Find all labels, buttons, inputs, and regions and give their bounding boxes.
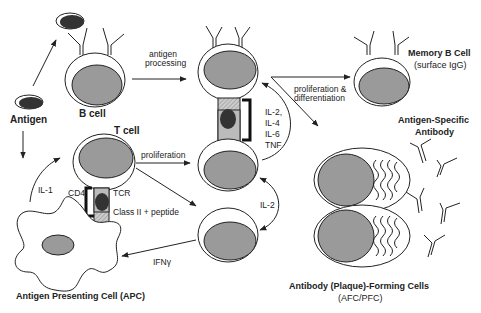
antibody-icon [440, 203, 460, 224]
conjugate-t-cell [198, 139, 258, 191]
mhc-peptide-label: Class II + peptide [113, 207, 179, 217]
afc-cell-1 [314, 148, 410, 212]
afc-cell-2 [314, 205, 410, 267]
memory-b-cell [354, 31, 410, 106]
conjugate-b-cell [198, 26, 258, 100]
antibody-icon [437, 158, 457, 177]
antibody-label-line2: Antibody [415, 127, 454, 137]
arrow-ifng [122, 240, 196, 256]
ifng-label: IFNγ [153, 257, 172, 267]
arrow-t-to-activated [136, 168, 196, 206]
antigen-label: Antigen [10, 114, 47, 125]
antibody-label-line1: Antigen-Specific [398, 115, 469, 125]
memory-b-sublabel: (surface IgG) [414, 60, 467, 70]
edge-label-processing: processing [145, 58, 186, 68]
edge-label-proliferation: proliferation [141, 150, 186, 160]
arrow-antigen-to-bcell [33, 40, 56, 86]
memory-b-label: Memory B Cell [408, 48, 471, 58]
tcr-label: TCR [113, 188, 130, 198]
diagram-canvas: Antigen B cell antigen processing [0, 0, 481, 313]
afc-label: Antibody (Plaque)-Forming Cells [289, 281, 429, 291]
antibody-icon [424, 235, 445, 257]
cd4-label: CD4 [68, 188, 85, 198]
il1-label: IL-1 [38, 185, 53, 195]
cytokine-tnf: TNF [265, 140, 282, 150]
il2-label: IL-2 [260, 200, 275, 210]
cytokine-il6: IL-6 [265, 129, 280, 139]
b-cell-label: B cell [79, 108, 106, 119]
immune-response-diagram: Antigen B cell antigen processing [0, 0, 481, 313]
edge-label-differentiation: differentiation [294, 93, 345, 103]
apc-label: Antigen Presenting Cell (APC) [16, 291, 145, 301]
cytokine-il2: IL-2, [265, 107, 282, 117]
antibody-icon [410, 139, 431, 163]
antibody-icon [406, 188, 424, 213]
activated-t-cell [198, 208, 258, 262]
arrow-il1 [30, 158, 60, 202]
antibody-icons [406, 139, 460, 257]
b-cell [56, 13, 125, 107]
antigen-icon [15, 95, 43, 109]
afc-sublabel: (AFC/PFC) [338, 293, 383, 303]
apc-nucleus [42, 235, 74, 255]
t-cell-label: T cell [114, 125, 140, 136]
cytokine-il4: IL-4 [265, 118, 280, 128]
conjugate-synapse [218, 98, 250, 144]
